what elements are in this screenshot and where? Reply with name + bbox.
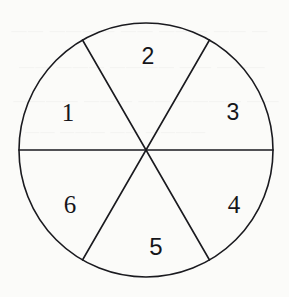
sector-number-6: 6 <box>64 192 77 217</box>
sector-number-5: 5 <box>149 235 162 259</box>
sector-number-4: 4 <box>228 192 241 217</box>
sector-number-3: 3 <box>227 101 240 124</box>
sector-number-2: 2 <box>142 45 155 68</box>
sector-number-1: 1 <box>62 100 75 125</box>
worksheet-figure: — —— ——— —— ———— —— ——— —— ———— ——— —— —… <box>0 0 289 297</box>
